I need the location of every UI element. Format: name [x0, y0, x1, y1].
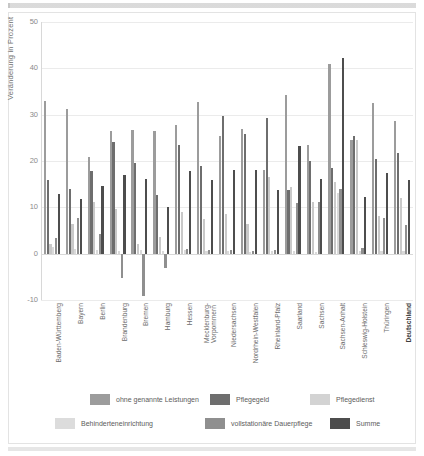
- y-axis-ticks: 50403020100-10: [14, 0, 38, 300]
- axes: [41, 22, 413, 300]
- x-tick-label: Hamburg: [164, 303, 171, 330]
- bar: [58, 194, 60, 253]
- bar: [134, 163, 136, 253]
- x-tick-label: Sachsen-Anhalt: [339, 303, 346, 350]
- bar-group: [131, 22, 147, 300]
- legend-swatch: [55, 418, 75, 429]
- x-tick-label: Schleswig-Holstein: [361, 303, 368, 359]
- bar: [47, 180, 49, 254]
- x-axis-labels: Baden-WürttembergBayernBerlinBrandenburg…: [41, 302, 413, 388]
- bar: [211, 180, 213, 254]
- bar-group: [241, 22, 257, 300]
- legend-item[interactable]: Behinderteneinrichtung: [55, 418, 153, 429]
- y-tick-label: 30: [16, 111, 38, 119]
- legend-item[interactable]: Pflegegeld: [210, 394, 269, 405]
- bar: [189, 171, 191, 253]
- bar: [167, 207, 169, 253]
- bar-group: [372, 22, 388, 300]
- x-tick-label: Rheinland-Pfalz: [274, 303, 281, 350]
- bar: [181, 212, 183, 254]
- x-tick-label: Saarland: [296, 303, 303, 329]
- bar: [386, 173, 388, 254]
- bar: [80, 199, 82, 254]
- x-tick-label: Baden-Württemberg: [55, 303, 62, 362]
- x-tick-label: Sachsen: [318, 303, 325, 329]
- legend-item[interactable]: Pflegedienst: [310, 394, 375, 405]
- legend-swatch: [90, 394, 110, 405]
- y-tick-label: 20: [16, 157, 38, 165]
- bar-group: [88, 22, 104, 300]
- gridline: [41, 300, 413, 301]
- y-tick-label: 10: [16, 203, 38, 211]
- x-tick-label: Bremen: [142, 303, 149, 326]
- bar: [312, 202, 314, 254]
- x-tick-label: Thüringen: [383, 303, 390, 333]
- bar-group: [110, 22, 126, 300]
- legend-item[interactable]: Summe: [330, 418, 380, 429]
- bar: [268, 177, 270, 254]
- legend-label: Summe: [356, 420, 380, 427]
- bar: [400, 198, 402, 254]
- scan-bottom-edge: [8, 447, 416, 451]
- bar-group: [197, 22, 213, 300]
- bar: [356, 140, 358, 254]
- bar: [364, 197, 366, 254]
- bar: [142, 254, 144, 297]
- bar-group: [175, 22, 191, 300]
- bar-group: [44, 22, 60, 300]
- legend-label: Pflegedienst: [336, 396, 375, 403]
- bar-group: [66, 22, 82, 300]
- bar: [342, 58, 344, 254]
- bar: [233, 170, 235, 253]
- bar: [225, 214, 227, 254]
- bar: [290, 187, 292, 254]
- x-tick-label: Nordrhein-Westfalen: [252, 303, 259, 363]
- y-tick-label: 0: [16, 250, 38, 258]
- legend-swatch: [310, 394, 330, 405]
- legend-swatch: [330, 418, 350, 429]
- x-tick-label: Niedersachsen: [230, 303, 237, 347]
- legend-label: Behinderteneinrichtung: [81, 420, 153, 427]
- bar: [115, 209, 117, 254]
- legend-row-1: ohne genannte LeistungenPflegegeldPflege…: [10, 392, 414, 410]
- bar: [408, 180, 410, 254]
- bar: [123, 175, 125, 254]
- bar-group: [394, 22, 410, 300]
- bar-group: [219, 22, 235, 300]
- legend-swatch: [205, 418, 225, 429]
- bar: [101, 186, 103, 254]
- chart-page: Veränderung in Prozent 50403020100-10 Ba…: [0, 0, 424, 456]
- bar: [164, 254, 166, 268]
- y-tick-label: 40: [16, 64, 38, 72]
- bar-group: [307, 22, 323, 300]
- legend-label: vollstationäre Dauerpflege: [231, 420, 312, 427]
- bar-group: [153, 22, 169, 300]
- bar-group: [328, 22, 344, 300]
- bar: [277, 190, 279, 253]
- bar: [246, 224, 248, 253]
- bar-group: [263, 22, 279, 300]
- x-tick-label: Hessen: [186, 303, 193, 325]
- x-tick-label: Mecklenburg-Vorpommern: [203, 303, 217, 343]
- bar: [203, 219, 205, 253]
- chart-legend: ohne genannte LeistungenPflegegeldPflege…: [10, 392, 414, 440]
- bar: [145, 179, 147, 254]
- legend-label: ohne genannte Leistungen: [116, 396, 199, 403]
- bar: [121, 254, 123, 279]
- bar: [255, 170, 257, 254]
- bar-group: [350, 22, 366, 300]
- x-tick-label: Brandenburg: [121, 303, 128, 341]
- legend-item[interactable]: vollstationäre Dauerpflege: [205, 418, 312, 429]
- y-tick-label: 50: [16, 18, 38, 26]
- legend-label: Pflegegeld: [236, 396, 269, 403]
- bar: [298, 146, 300, 254]
- y-tick-label: -10: [16, 296, 38, 304]
- legend-row-2: Behinderteneinrichtungvollstationäre Dau…: [10, 416, 414, 434]
- x-tick-label: Deutschland: [405, 303, 412, 343]
- legend-item[interactable]: ohne genannte Leistungen: [90, 394, 199, 405]
- bar: [378, 216, 380, 254]
- bar: [93, 202, 95, 253]
- bar: [320, 179, 322, 254]
- plot-area: Veränderung in Prozent 50403020100-10 Ba…: [0, 0, 424, 300]
- x-tick-label: Bayern: [77, 303, 84, 324]
